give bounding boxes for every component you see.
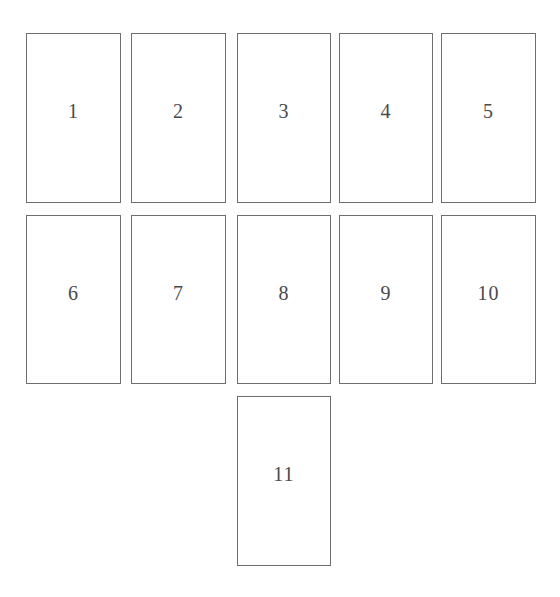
card-label: 10	[442, 283, 535, 303]
card-6: 6	[26, 215, 121, 384]
card-label: 7	[132, 283, 225, 303]
card-10: 10	[441, 215, 536, 384]
card-label: 5	[442, 101, 535, 121]
card-7: 7	[131, 215, 226, 384]
card-label: 6	[27, 283, 120, 303]
card-5: 5	[441, 33, 536, 203]
card-label: 9	[340, 283, 432, 303]
card-1: 1	[26, 33, 121, 203]
card-label: 1	[27, 101, 120, 121]
card-8: 8	[237, 215, 331, 384]
card-label: 3	[238, 101, 330, 121]
card-label: 8	[238, 283, 330, 303]
card-3: 3	[237, 33, 331, 203]
card-2: 2	[131, 33, 226, 203]
card-label: 11	[238, 464, 330, 484]
card-label: 4	[340, 101, 432, 121]
card-label: 2	[132, 101, 225, 121]
card-4: 4	[339, 33, 433, 203]
card-9: 9	[339, 215, 433, 384]
card-11: 11	[237, 396, 331, 566]
